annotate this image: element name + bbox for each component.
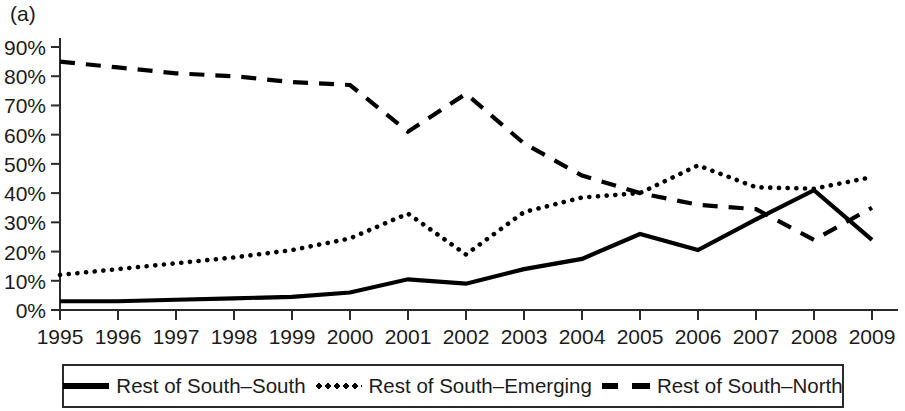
x-tick-label: 2001 bbox=[385, 325, 432, 346]
x-tick-label: 1997 bbox=[153, 325, 200, 346]
x-tick-label: 1995 bbox=[37, 325, 84, 346]
x-tick-label: 2002 bbox=[443, 325, 490, 346]
y-tick-label: 20% bbox=[4, 241, 46, 264]
series-line-solid bbox=[60, 190, 872, 301]
legend-entry[interactable]: Rest of South–Emerging bbox=[311, 376, 597, 396]
x-axis: 1995199619971998199920002001200220032004… bbox=[37, 310, 898, 346]
x-tick-label: 2009 bbox=[849, 325, 896, 346]
y-tick-label: 40% bbox=[4, 182, 46, 205]
series-line-dashed bbox=[60, 62, 872, 240]
chart-legend: Rest of South–SouthRest of South–Emergin… bbox=[62, 364, 844, 408]
legend-entry[interactable]: Rest of South–South bbox=[58, 376, 310, 396]
x-tick-label: 2004 bbox=[559, 325, 606, 346]
y-tick-label: 0% bbox=[16, 299, 46, 322]
x-tick-label: 1999 bbox=[269, 325, 316, 346]
chart-series-group bbox=[60, 62, 872, 302]
x-tick-label: 2003 bbox=[501, 325, 548, 346]
figure-panel-a: (a) 0%10%20%30%40%50%60%70%80%90% 199519… bbox=[0, 0, 905, 411]
x-tick-label: 2005 bbox=[617, 325, 664, 346]
legend-swatch-solid-icon bbox=[63, 383, 109, 389]
y-tick-label: 60% bbox=[4, 124, 46, 147]
y-tick-label: 10% bbox=[4, 270, 46, 293]
legend-label: Rest of South–Emerging bbox=[369, 376, 592, 396]
legend-entries: Rest of South–SouthRest of South–Emergin… bbox=[64, 366, 842, 406]
legend-entry[interactable]: Rest of South–North bbox=[597, 376, 848, 396]
y-tick-label: 90% bbox=[4, 36, 46, 59]
legend-label: Rest of South–South bbox=[116, 376, 305, 396]
legend-swatch-dotted-icon bbox=[316, 383, 362, 389]
y-tick-label: 70% bbox=[4, 94, 46, 117]
y-tick-label: 30% bbox=[4, 211, 46, 234]
x-tick-label: 2008 bbox=[791, 325, 838, 346]
x-tick-label: 2006 bbox=[675, 325, 722, 346]
x-tick-label: 1996 bbox=[95, 325, 142, 346]
x-tick-label: 2000 bbox=[327, 325, 374, 346]
y-axis: 0%10%20%30%40%50%60%70%80%90% bbox=[4, 36, 60, 322]
legend-swatch-dashed-icon bbox=[602, 383, 650, 389]
panel-label: (a) bbox=[10, 2, 36, 26]
legend-label: Rest of South–North bbox=[657, 376, 843, 396]
x-tick-label: 2007 bbox=[733, 325, 780, 346]
y-tick-label: 50% bbox=[4, 153, 46, 176]
line-chart-svg: 0%10%20%30%40%50%60%70%80%90% 1995199619… bbox=[0, 26, 905, 346]
y-tick-label: 80% bbox=[4, 65, 46, 88]
x-tick-label: 1998 bbox=[211, 325, 258, 346]
chart-plot-area: 0%10%20%30%40%50%60%70%80%90% 1995199619… bbox=[0, 26, 905, 346]
